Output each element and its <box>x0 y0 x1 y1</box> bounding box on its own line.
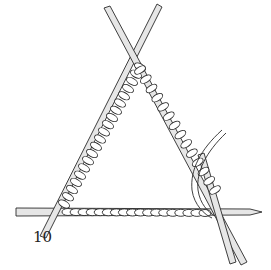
stitches <box>57 61 222 216</box>
stitch-loop <box>185 147 199 159</box>
figure-number: 10 <box>33 228 52 246</box>
illustration: 10 <box>0 0 271 270</box>
